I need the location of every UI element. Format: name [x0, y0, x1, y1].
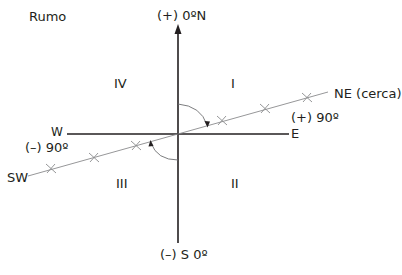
west-label: W	[51, 126, 63, 138]
sw-angle-label: (–) 90º	[25, 141, 68, 154]
quadrant-iv-label: IV	[114, 77, 127, 90]
ne-label: NE (cerca)	[334, 87, 402, 100]
angle-arc-ne	[178, 104, 210, 128]
diagram-title: Rumo	[29, 10, 66, 23]
quadrant-i-label: I	[231, 77, 235, 90]
north-label: (+) 0ºN	[157, 9, 206, 22]
east-label: E	[291, 127, 299, 140]
sw-label: SW	[7, 171, 28, 184]
angle-arc-sw	[149, 140, 179, 160]
quadrant-ii-label: II	[231, 177, 239, 190]
ne-angle-label: (+) 90º	[291, 111, 339, 124]
south-label: (–) S 0º	[160, 248, 208, 261]
quadrant-iii-label: III	[116, 177, 128, 190]
north-arrow-icon	[175, 24, 182, 34]
